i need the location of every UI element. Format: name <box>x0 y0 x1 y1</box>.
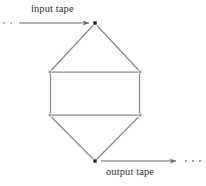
hexagon-edges <box>51 26 140 160</box>
corner-lower-left <box>49 114 52 117</box>
corner-upper-right <box>139 71 142 74</box>
input-tape-ellipsis <box>3 22 12 24</box>
edge-bottom-left-diagonal <box>52 117 94 159</box>
bottom-vertex-node <box>93 159 96 162</box>
tape-machine-diagram <box>0 0 206 186</box>
output-tape-ellipsis <box>185 160 201 162</box>
corner-lower-right <box>139 114 142 117</box>
edge-top-left-diagonal <box>52 26 94 71</box>
top-vertex-node <box>93 21 96 24</box>
output-tape-label: output tape <box>106 166 154 177</box>
edge-bottom-right-diagonal <box>97 117 139 159</box>
input-tape-label: input tape <box>31 3 74 14</box>
figure-canvas: input tape output tape <box>0 0 206 186</box>
corner-upper-left <box>49 71 52 74</box>
edge-top-right-diagonal <box>97 26 139 71</box>
hexagon-corner-marks <box>49 71 142 117</box>
